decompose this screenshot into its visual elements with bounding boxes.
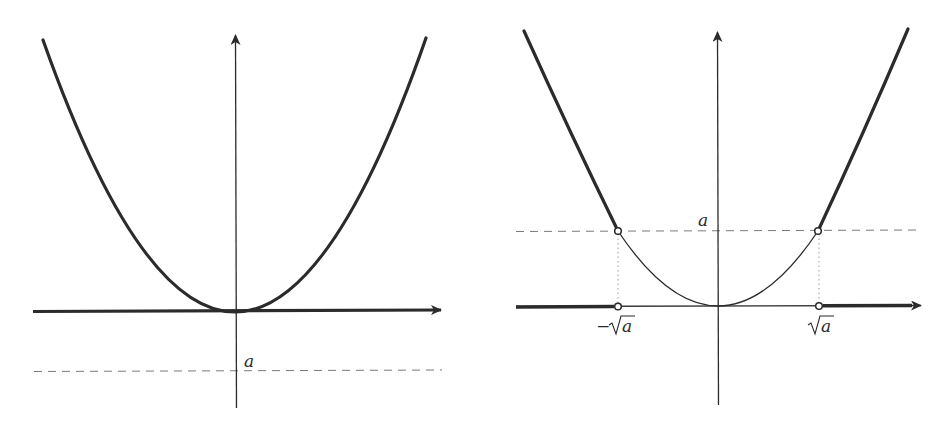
tick-label-neg-sqrt-a: − a bbox=[596, 316, 635, 336]
left-dashed-line-y-a bbox=[34, 370, 442, 372]
left-y-axis bbox=[236, 35, 237, 408]
right-parabola-left-branch-thick bbox=[524, 31, 618, 231]
right-x-axis-highlight-left bbox=[516, 307, 614, 308]
right-plot: a − a a bbox=[516, 29, 922, 405]
left-parabola-curve bbox=[43, 38, 426, 312]
radicand-a: a bbox=[622, 316, 632, 336]
right-y-axis bbox=[718, 32, 719, 405]
right-open-point-axis-pos bbox=[816, 303, 823, 310]
figure: a a − a a bbox=[0, 0, 948, 426]
left-label-a: a bbox=[244, 351, 254, 371]
right-dashed-line-y-a bbox=[516, 230, 922, 232]
right-open-point-curve-neg bbox=[615, 228, 622, 235]
right-open-point-axis-neg bbox=[615, 303, 622, 310]
tick-label-pos-sqrt-a: a bbox=[808, 316, 834, 336]
left-plot: a bbox=[33, 35, 442, 408]
right-open-point-curve-pos bbox=[815, 228, 822, 235]
right-parabola-right-branch-thick bbox=[818, 29, 908, 231]
radicand-a: a bbox=[821, 316, 831, 336]
minus-sign: − bbox=[596, 316, 610, 336]
right-label-a: a bbox=[698, 210, 708, 230]
